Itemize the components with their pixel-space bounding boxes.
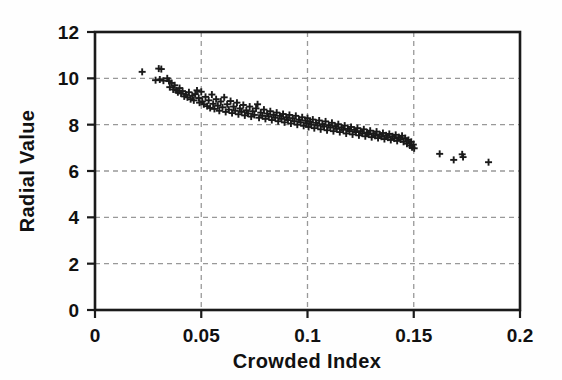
chart-figure: 00.050.10.150.2 024681012 Crowded Index …: [0, 0, 562, 380]
x-axis-title: Crowded Index: [233, 350, 382, 372]
y-tick-label: 2: [68, 254, 79, 275]
x-tick-label: 0: [90, 325, 101, 346]
x-tick-labels: 00.050.10.150.2: [90, 325, 534, 346]
y-tick-label: 4: [68, 207, 79, 228]
x-tick-label: 0.15: [395, 325, 432, 346]
y-tick-label: 10: [58, 68, 79, 89]
y-axis-title: Radial Value: [16, 110, 38, 233]
y-tick-label: 12: [58, 22, 79, 43]
x-tick-label: 0.2: [507, 325, 533, 346]
x-tick-label: 0.05: [183, 325, 220, 346]
x-tick-label: 0.1: [294, 325, 321, 346]
scatter-plot: 00.050.10.150.2 024681012 Crowded Index …: [0, 0, 562, 380]
y-tick-label: 0: [68, 300, 79, 321]
y-tick-label: 8: [68, 115, 79, 136]
y-tick-label: 6: [68, 161, 79, 182]
y-tick-labels: 024681012: [58, 22, 80, 321]
